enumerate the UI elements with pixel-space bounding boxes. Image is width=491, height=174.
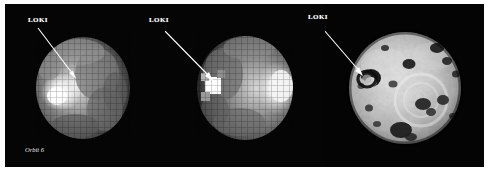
panel-orbit-7-high-res: Orbit 7 xyxy=(325,4,484,167)
loki-label-1: LOKI xyxy=(28,16,48,24)
loki-label-2: LOKI xyxy=(149,16,169,24)
loki-arrow-2 xyxy=(165,4,325,167)
panel-orbit-7-low-res: Orbit 7 xyxy=(165,4,325,167)
image-plate: LOKI Orbit 6 xyxy=(5,4,484,167)
orbit-label-1: Orbit 6 xyxy=(25,146,44,153)
loki-label-3: LOKI xyxy=(308,13,328,21)
io-loki-figure: LOKI Orbit 6 xyxy=(0,0,491,174)
loki-arrow-3 xyxy=(325,4,484,167)
panel-orbit-6: LOKI Orbit 6 xyxy=(5,4,165,167)
loki-arrow-1 xyxy=(5,4,165,167)
